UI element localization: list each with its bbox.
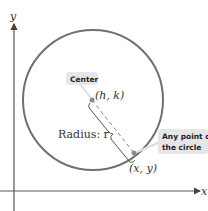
center-point-label: (h, k) — [95, 89, 124, 102]
center-callout-text: Center — [70, 75, 99, 84]
radius-line — [92, 100, 134, 153]
center-callout-leader — [80, 84, 91, 98]
circle-point — [132, 151, 137, 156]
point-callout-text-1: Any point on — [162, 132, 208, 141]
x-axis-label: x — [201, 185, 208, 198]
point-callout-text-2: the circle — [162, 143, 201, 152]
circle-point-label: (x, y) — [129, 162, 157, 175]
circle-diagram: y x (h, k) (x, y) Radius: r Center Any p… — [0, 0, 208, 211]
radius-label: Radius: r — [58, 128, 110, 141]
y-axis-label: y — [9, 10, 17, 23]
